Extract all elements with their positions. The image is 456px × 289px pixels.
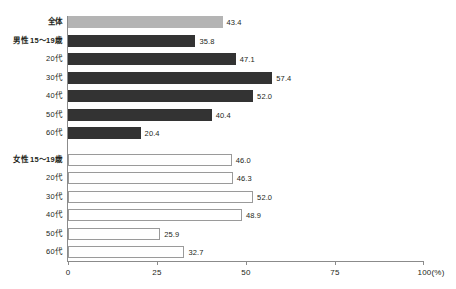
x-axis-tick [246,261,247,265]
category-label: 30代 [46,72,62,84]
bar-value-label: 46.0 [236,155,251,164]
bar-2 [68,35,195,47]
bar-8 [68,154,232,166]
category-label: 60代 [46,246,62,258]
bar-12 [68,228,160,240]
category-label: 50代 [46,109,62,121]
category-label: 30代 [46,191,62,203]
x-axis-tick [335,261,336,265]
bar-value-label: 40.4 [216,110,231,119]
bar-7 [68,127,141,139]
bar-value-label: 43.4 [227,18,242,27]
category-label: 全体 [48,16,62,28]
x-axis-tick-label: 75 [330,268,339,277]
bar-value-label: 25.9 [164,229,179,238]
x-axis-tick [68,261,69,265]
category-label: 60代 [46,127,62,139]
plot-area: 43.435.847.157.452.040.420.446.046.352.0… [68,16,424,261]
bar-value-label: 32.7 [188,248,203,257]
category-label: 50代 [46,228,62,240]
bar-value-label: 46.3 [237,174,252,183]
bar-value-label: 57.4 [276,73,291,82]
x-axis-tick-label: 0 [66,268,71,277]
bar-6 [68,109,212,121]
bar-chart: 43.435.847.157.452.040.420.446.046.352.0… [0,0,456,289]
x-axis-tick [157,261,158,265]
bar-value-label: 47.1 [240,55,255,64]
category-label: 男性 15～19歳 [13,35,62,47]
bar-5 [68,90,253,102]
bar-4 [68,72,272,84]
x-axis-tick [423,261,424,265]
bar-10 [68,191,253,203]
category-label: 20代 [46,53,62,65]
bar-value-label: 48.9 [246,211,261,220]
category-label: 40代 [46,209,62,221]
bar-value-label: 52.0 [257,92,272,101]
bar-value-label: 20.4 [145,129,160,138]
x-axis-tick-label: 25 [152,268,161,277]
bar-value-label: 35.8 [199,36,214,45]
category-label: 女性 15～19歳 [13,154,62,166]
bar-9 [68,172,233,184]
category-label: 20代 [46,172,62,184]
bar-3 [68,53,236,65]
bar-13 [68,246,184,258]
x-axis-tick-label: 100(%) [418,268,445,277]
bar-1 [68,16,223,28]
bar-value-label: 52.0 [257,192,272,201]
category-label: 40代 [46,90,62,102]
bar-11 [68,209,242,221]
x-axis-tick-label: 50 [241,268,250,277]
